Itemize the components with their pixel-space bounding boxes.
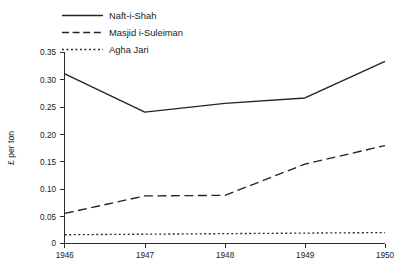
- x-tick-label-0: 1946: [56, 251, 75, 260]
- legend-item-2: Agha Jari: [62, 44, 149, 55]
- y-tick-label-7: 0: [51, 239, 56, 248]
- series-group: [65, 61, 385, 234]
- series-line-masjid-i-suleiman: [65, 146, 385, 214]
- y-tick-label-4: 0.15: [40, 158, 56, 167]
- legend-item-1: Masjid i-Suleiman: [62, 27, 183, 38]
- y-tick-label-1: 0.30: [40, 76, 56, 85]
- x-tick-label-2: 1948: [216, 251, 235, 260]
- y-axis: 0.35 0.30 0.25 0.20 0.15 0.10 0.05 0 £ p…: [6, 48, 65, 248]
- x-tick-label-3: 1949: [296, 251, 315, 260]
- x-tick-label-1: 1947: [136, 251, 155, 260]
- y-tick-label-5: 0.10: [40, 185, 56, 194]
- chart-legend: Naft-i-Shah Masjid i-Suleiman Agha Jari: [62, 10, 183, 55]
- y-tick-label-0: 0.35: [40, 48, 56, 57]
- x-tick-label-4: 1950: [376, 251, 395, 260]
- y-tick-label-3: 0.20: [40, 131, 56, 140]
- legend-item-0: Naft-i-Shah: [62, 10, 156, 21]
- series-line-naft-i-shah: [65, 61, 385, 112]
- x-axis: 1946 1947 1948 1949 1950: [56, 244, 395, 261]
- legend-label-1: Masjid i-Suleiman: [109, 27, 183, 38]
- legend-label-0: Naft-i-Shah: [109, 10, 156, 21]
- series-line-agha-jari: [65, 233, 385, 235]
- y-axis-title: £ per ton: [6, 131, 16, 165]
- y-tick-label-2: 0.25: [40, 103, 56, 112]
- legend-label-2: Agha Jari: [109, 44, 149, 55]
- line-chart: Naft-i-Shah Masjid i-Suleiman Agha Jari …: [0, 0, 397, 263]
- chart-canvas: Naft-i-Shah Masjid i-Suleiman Agha Jari …: [0, 0, 397, 263]
- y-tick-label-6: 0.05: [40, 213, 56, 222]
